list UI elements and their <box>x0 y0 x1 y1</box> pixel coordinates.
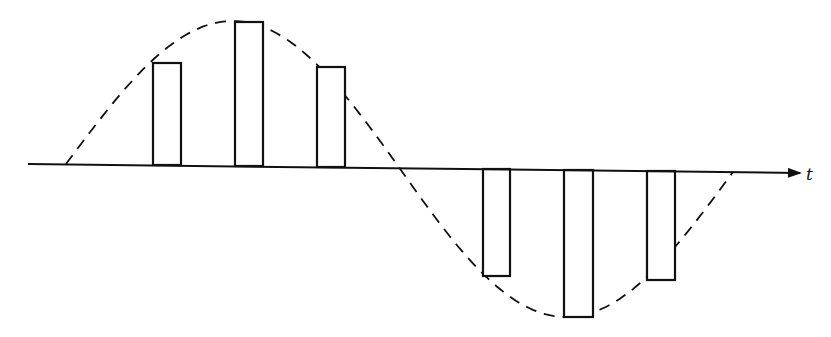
sample-pulse-6 <box>647 171 675 280</box>
time-axis <box>28 164 800 173</box>
sample-pulse-3 <box>317 67 345 167</box>
sample-pulse-4 <box>483 169 510 276</box>
sampled-signal-diagram: t <box>0 0 831 337</box>
sample-pulse-5 <box>564 170 593 317</box>
sample-pulse-2 <box>235 22 263 166</box>
sample-pulse-1 <box>153 63 181 165</box>
time-axis-label: t <box>806 164 813 184</box>
